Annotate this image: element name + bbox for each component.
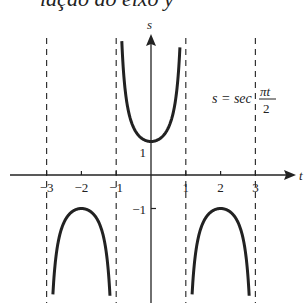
curve-branch <box>192 209 249 296</box>
curve-branch <box>53 209 110 296</box>
svg-text:−2: −2 <box>74 180 88 195</box>
s-axis: s <box>146 17 156 303</box>
t-axis: t <box>10 168 303 183</box>
svg-text:−1: −1 <box>109 180 123 195</box>
plot-area: t s −3−2−11231−1 s = sec πt 2 <box>0 0 307 303</box>
svg-text:s = sec: s = sec <box>212 91 253 106</box>
svg-text:−1: −1 <box>132 202 146 217</box>
svg-text:3: 3 <box>252 180 259 195</box>
svg-text:πt: πt <box>260 84 271 99</box>
chart-figure: lação ao eixo y t s −3−2−11231−1 s = sec… <box>0 0 307 303</box>
svg-text:−3: −3 <box>40 180 54 195</box>
equation-label: s = sec πt 2 <box>212 84 276 116</box>
ticks: −3−2−11231−1 <box>40 142 259 217</box>
svg-text:2: 2 <box>263 101 270 116</box>
t-axis-label: t <box>299 168 303 183</box>
s-axis-label: s <box>147 17 152 32</box>
svg-text:2: 2 <box>217 180 224 195</box>
svg-text:1: 1 <box>183 180 190 195</box>
svg-text:1: 1 <box>140 145 147 160</box>
